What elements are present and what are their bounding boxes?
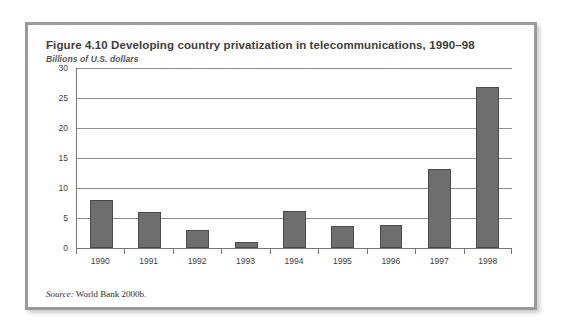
figure-subtitle-units: Billions of U.S. dollars xyxy=(46,54,520,64)
x-tick-label-1992: 1992 xyxy=(173,256,221,266)
y-tick-label: 10 xyxy=(59,183,68,193)
x-tick-label-1998: 1998 xyxy=(464,256,512,266)
source-text: World Bank 2000b. xyxy=(74,289,147,299)
bar-slot xyxy=(319,68,367,248)
bar-1997[interactable] xyxy=(428,169,451,248)
bar-series xyxy=(77,68,512,248)
bar-1996[interactable] xyxy=(380,225,403,248)
figure-panel: Figure 4.10 Developing country privatiza… xyxy=(25,22,537,310)
figure-page: Figure 4.10 Developing country privatiza… xyxy=(0,0,577,334)
x-tick-label-1991: 1991 xyxy=(124,256,172,266)
x-tick xyxy=(318,249,366,254)
bar-1998[interactable] xyxy=(476,87,499,248)
y-tick-label: 25 xyxy=(59,93,68,103)
bar-slot xyxy=(415,68,463,248)
bar-slot xyxy=(464,68,512,248)
bar-1995[interactable] xyxy=(331,226,354,248)
x-tick xyxy=(76,249,124,254)
x-tick-label-1997: 1997 xyxy=(415,256,463,266)
bar-1991[interactable] xyxy=(138,212,161,248)
bar-slot xyxy=(270,68,318,248)
x-tick-label-1995: 1995 xyxy=(318,256,366,266)
y-tick-label: 5 xyxy=(63,213,68,223)
x-tick-label-1996: 1996 xyxy=(367,256,415,266)
bar-slot xyxy=(174,68,222,248)
bar-1990[interactable] xyxy=(90,200,113,248)
chart-plot-wrapper: 051015202530 199019911992199319941995199… xyxy=(46,68,520,268)
figure-inner: Figure 4.10 Developing country privatiza… xyxy=(28,25,534,307)
y-tick-label: 30 xyxy=(59,63,68,73)
x-axis-ticks xyxy=(76,249,512,254)
x-tick xyxy=(221,249,269,254)
x-tick xyxy=(415,249,463,254)
x-tick xyxy=(270,249,318,254)
bar-slot xyxy=(77,68,125,248)
source-label: Source: xyxy=(46,289,74,299)
bar-1992[interactable] xyxy=(186,230,209,248)
source-note: Source: World Bank 2000b. xyxy=(46,289,146,299)
x-tick-label-1994: 1994 xyxy=(270,256,318,266)
y-tick-label: 15 xyxy=(59,153,68,163)
x-tick xyxy=(367,249,415,254)
y-tick-label: 0 xyxy=(63,243,68,253)
bar-1994[interactable] xyxy=(283,211,306,248)
y-tick-label: 20 xyxy=(59,123,68,133)
bar-slot xyxy=(222,68,270,248)
figure-title: Figure 4.10 Developing country privatiza… xyxy=(46,39,520,51)
bar-1993[interactable] xyxy=(235,242,258,248)
bar-slot xyxy=(125,68,173,248)
bar-slot xyxy=(367,68,415,248)
x-tick-label-1990: 1990 xyxy=(76,256,124,266)
y-axis-tick-labels: 051015202530 xyxy=(46,68,72,248)
x-tick xyxy=(173,249,221,254)
x-tick-label-1993: 1993 xyxy=(221,256,269,266)
plot-area xyxy=(76,68,512,249)
x-tick xyxy=(124,249,172,254)
x-axis-tick-labels: 199019911992199319941995199619971998 xyxy=(76,256,512,266)
x-tick xyxy=(464,249,512,254)
